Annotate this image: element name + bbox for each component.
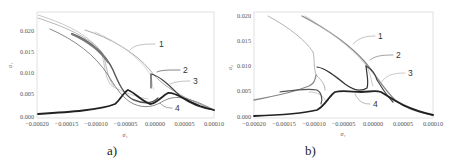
y-tick: 0.000	[237, 113, 251, 120]
curve-outer	[268, 16, 325, 90]
chart-panel-a: 0.020 0.015 0.010 0.005 0.000 a₁ −0.0002…	[0, 0, 225, 168]
y-tick: 0.005	[237, 87, 251, 94]
curve-2	[151, 74, 214, 110]
x-tick: 0.00010	[423, 120, 443, 127]
leader-2	[157, 70, 180, 72]
curve-1-inner	[305, 16, 373, 86]
x-tick: −0.00005	[114, 120, 138, 127]
x-tick: −0.00010	[84, 120, 108, 127]
leader-3	[380, 73, 405, 84]
x-tick: 0.00000	[363, 120, 383, 127]
leader-3	[170, 81, 190, 84]
x-tick: −0.00005	[332, 120, 356, 127]
y-tick: 0.010	[237, 62, 251, 69]
curve-label-1: 1	[378, 31, 383, 41]
leader-4	[355, 94, 370, 104]
x-tick: −0.00020	[242, 120, 266, 127]
panel-caption-a: a)	[107, 143, 117, 159]
x-tick: 0.00005	[393, 120, 413, 127]
chart-panel-b: 0.020 0.015 0.010 0.005 0.000 a₂ −0.0002…	[225, 0, 449, 168]
curve-label-2: 2	[183, 65, 188, 75]
curve-3-inner	[309, 92, 325, 100]
y-tick: 0.020	[20, 27, 34, 34]
curves	[254, 16, 433, 116]
y-tick: 0.000	[20, 113, 34, 120]
y-tick: 0.015	[20, 48, 34, 55]
leader-1	[353, 36, 375, 44]
y-axis-label: a₁	[7, 63, 13, 68]
y-axis-label: a₂	[227, 65, 233, 70]
chart-b-svg: 0.020 0.015 0.010 0.005 0.000 a₂ −0.0002…	[225, 0, 449, 168]
x-tick: −0.00020	[25, 120, 49, 127]
curve-outer	[38, 18, 114, 86]
leader-4	[160, 103, 172, 108]
x-tick: 0.00000	[145, 120, 165, 127]
x-tick: 0.00010	[204, 120, 224, 127]
curve-label-3: 3	[408, 68, 413, 78]
leader-1	[130, 44, 155, 50]
curve-label-1: 1	[159, 39, 164, 49]
x-tick: −0.00015	[272, 120, 296, 127]
curve-3	[50, 29, 214, 110]
curve-label-3: 3	[193, 76, 198, 86]
curve-3	[254, 75, 316, 100]
x-axis-label: σ₁	[340, 131, 345, 137]
curve-1-inner	[95, 32, 154, 90]
curve-3-lower	[280, 89, 322, 104]
x-tick: 0.00005	[174, 120, 194, 127]
x-tick: −0.00015	[55, 120, 79, 127]
y-tick: 0.020	[237, 12, 251, 19]
y-tick: 0.005	[20, 90, 34, 97]
curve-label-4: 4	[373, 99, 378, 109]
curve-label-4: 4	[175, 103, 180, 113]
leader-2	[370, 55, 393, 60]
y-tick: 0.010	[20, 69, 34, 76]
plot-frame	[254, 12, 433, 118]
x-axis-label: σ₁	[122, 132, 127, 138]
panel-caption-b: b)	[305, 143, 316, 159]
y-tick: 0.015	[237, 37, 251, 44]
x-tick: −0.00010	[302, 120, 326, 127]
curve-label-2: 2	[396, 50, 401, 60]
